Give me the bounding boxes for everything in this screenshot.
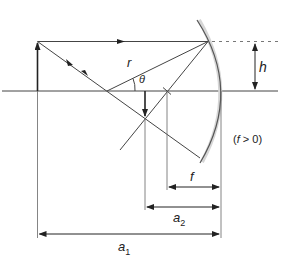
angle-label: θ — [139, 74, 145, 85]
radius-line — [107, 42, 208, 92]
image-distance-label: a2 — [173, 211, 185, 228]
focal-length-label: f — [190, 170, 194, 183]
ray-direction-arrow — [117, 39, 125, 44]
angle-arc — [133, 79, 135, 92]
ray-direction-arrow-down — [66, 59, 73, 66]
radius-label: r — [127, 56, 131, 69]
height-label: h — [259, 60, 267, 74]
focal-condition-note: (f > 0) — [233, 134, 262, 145]
ray-diagram — [0, 0, 283, 261]
reflected-ray — [120, 42, 208, 151]
object-distance-label: a1 — [118, 240, 130, 257]
ray-through-center — [38, 42, 201, 159]
